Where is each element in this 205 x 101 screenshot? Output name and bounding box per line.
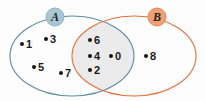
venn-diagram-figure: A B 135764028 [0, 0, 205, 101]
element-label: 2 [94, 65, 100, 76]
element-label: 0 [115, 51, 121, 62]
element-label: 8 [150, 51, 156, 62]
element-dot [88, 68, 92, 72]
set-label-a-text: A [51, 10, 59, 25]
element-label: 5 [38, 62, 44, 73]
element-label: 3 [50, 34, 56, 45]
element-dot [32, 65, 36, 69]
element-dot [44, 37, 48, 41]
element-label: 6 [94, 35, 100, 46]
element-dot [109, 54, 113, 58]
element-dot [88, 38, 92, 42]
element-dot [88, 54, 92, 58]
set-label-badge-a: A [46, 8, 65, 27]
element-label: 4 [94, 51, 100, 62]
element-dot [59, 71, 63, 75]
element-label: 1 [26, 39, 32, 50]
element-dot [144, 54, 148, 58]
venn-diagram-canvas [0, 0, 205, 101]
element-dot [20, 42, 24, 46]
set-label-b-text: B [153, 10, 161, 25]
element-label: 7 [65, 68, 71, 79]
set-label-badge-b: B [148, 8, 167, 27]
